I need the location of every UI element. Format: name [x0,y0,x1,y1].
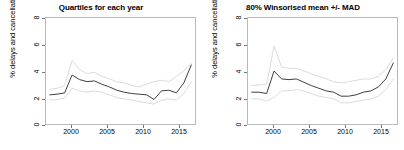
plot-svg-quartiles [46,18,195,124]
y-tick-label-left-4: 4 [33,66,40,78]
y-tick-label-right-4: 4 [235,66,242,78]
x-tick-label-right-2005: 2005 [294,128,324,135]
y-tick-label-right-8: 8 [235,12,242,24]
y-tick-label-left-8: 8 [33,12,40,24]
panel-quartiles: Quartiles for each year % delays and can… [0,0,202,150]
panel-title-quartiles: Quartiles for each year [0,3,202,12]
plot-area-winsorised [247,17,398,125]
x-tick-label-right-2000: 2000 [258,128,288,135]
y-tick-label-left-6: 6 [33,39,40,51]
x-tick-label-left-2015: 2015 [164,128,194,135]
panel-title-winsorised: 80% Winsorised mean +/- MAD [202,3,404,12]
y-tick-label-left-2: 2 [33,93,40,105]
x-tick-label-left-2000: 2000 [56,128,86,135]
plot-area-quartiles [45,17,196,125]
y-tick-mark-left-0 [42,125,45,126]
plot-svg-winsorised [248,18,397,124]
series-line [252,63,394,96]
y-tick-label-left-0: 0 [33,119,40,131]
y-tick-label-right-0: 0 [235,119,242,131]
series-line [252,79,394,103]
figure-container: Quartiles for each year % delays and can… [0,0,404,150]
y-axis-label-left: % delays and cancellations [8,0,17,93]
x-tick-label-left-2010: 2010 [128,128,158,135]
y-tick-mark-right-0 [244,125,247,126]
series-line [50,60,192,89]
y-axis-label-right: % delays and cancellations [210,0,219,93]
y-tick-label-right-2: 2 [235,93,242,105]
x-tick-label-right-2015: 2015 [366,128,396,135]
series-line [50,82,192,105]
panel-winsorised: 80% Winsorised mean +/- MAD % delays and… [202,0,404,150]
y-tick-label-right-6: 6 [235,39,242,51]
x-tick-label-right-2010: 2010 [330,128,360,135]
x-tick-label-left-2005: 2005 [92,128,122,135]
series-line [252,46,394,86]
